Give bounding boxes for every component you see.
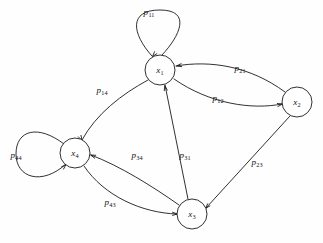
edges-layer (16, 10, 290, 215)
edge-label-p11: p11 (143, 7, 155, 18)
edge-label-p43: p43 (104, 197, 116, 208)
edge-p43 (84, 166, 178, 215)
edge-p14 (78, 80, 148, 141)
edge-path-p23 (206, 116, 290, 208)
edge-p44 (16, 132, 66, 177)
edge-path-p44 (16, 132, 66, 177)
edge-label-p31: p31 (179, 150, 191, 161)
edge-p31 (164, 85, 188, 199)
nodes-layer: x1x2x3x4 (60, 55, 312, 229)
edge-path-p12 (174, 79, 282, 106)
edge-label-p14: p14 (96, 85, 108, 96)
node-x2: x2 (282, 87, 312, 117)
edge-label-p12: p12 (212, 93, 224, 104)
edge-label-p44: p44 (10, 150, 22, 161)
node-x4: x4 (60, 138, 90, 168)
edge-path-p21 (176, 64, 285, 92)
edge-p23 (206, 116, 291, 209)
edge-path-p14 (82, 80, 148, 140)
diagram-canvas: x1x2x3x4 p11p21p12p14p44p34p43p31p23 (0, 0, 323, 243)
edge-p12 (174, 79, 283, 107)
node-x3: x3 (177, 199, 207, 229)
state-transition-graph: x1x2x3x4 p11p21p12p14p44p34p43p31p23 (0, 0, 323, 243)
node-x1: x1 (145, 55, 175, 85)
edge-p21 (176, 64, 285, 92)
arrowhead-p44 (61, 165, 66, 170)
edge-label-p34: p34 (131, 150, 143, 161)
edge-label-p23: p23 (251, 157, 263, 168)
edge-path-p31 (165, 85, 188, 199)
edge-label-p21: p21 (234, 63, 246, 74)
edge-path-p43 (84, 166, 177, 214)
